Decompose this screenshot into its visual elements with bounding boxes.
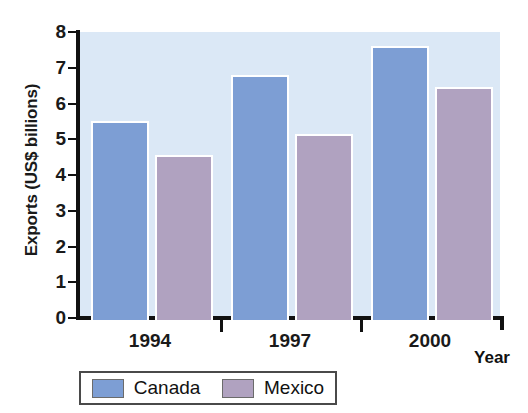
bar-canada-1997 <box>231 75 289 322</box>
x-axis-tick <box>220 318 223 332</box>
y-axis-tick-label: 0 <box>44 308 66 327</box>
y-axis-tick <box>68 67 77 69</box>
x-axis-tick <box>360 318 363 332</box>
x-axis-tick-label-1997: 1997 <box>245 330 335 352</box>
legend-label-canada: Canada <box>134 377 201 399</box>
y-axis-tick <box>68 138 77 140</box>
y-axis-tick-label: 1 <box>44 272 66 291</box>
y-axis-tick-label: 6 <box>44 94 66 113</box>
y-axis-tick <box>68 103 77 105</box>
y-axis-tick <box>68 210 77 212</box>
legend-entry-canada: Canada <box>92 377 201 399</box>
y-axis-tick <box>68 281 77 283</box>
y-axis-tick-label: 8 <box>44 22 66 41</box>
y-axis-title: Exports (US$ billions) <box>22 20 42 320</box>
legend-label-mexico: Mexico <box>264 377 324 399</box>
y-axis-tick-label: 2 <box>44 237 66 256</box>
bar-canada-2000 <box>371 46 429 322</box>
bar-chart: Exports (US$ billions) 012345678 1994199… <box>0 0 528 413</box>
legend-entry-mexico: Mexico <box>222 377 324 399</box>
y-axis-tick-label: 3 <box>44 201 66 220</box>
bar-mexico-1994 <box>155 155 213 322</box>
y-axis-tick-label: 5 <box>44 129 66 148</box>
x-axis-title: Year <box>430 348 510 368</box>
legend-swatch-mexico <box>222 379 254 398</box>
bar-canada-1994 <box>91 121 149 322</box>
bar-mexico-1997 <box>295 134 353 322</box>
y-axis-tick-label: 4 <box>44 165 66 184</box>
y-axis-tick-label: 7 <box>44 58 66 77</box>
y-axis-tick <box>68 31 77 33</box>
legend-swatch-canada <box>92 379 124 398</box>
y-axis-tick <box>68 317 77 319</box>
bar-mexico-2000 <box>435 87 493 322</box>
x-axis-end-cap <box>500 316 504 330</box>
y-axis-tick <box>68 174 77 176</box>
chart-legend: Canada Mexico <box>79 371 337 405</box>
x-axis-tick-label-1994: 1994 <box>105 330 195 352</box>
y-axis-tick <box>68 246 77 248</box>
